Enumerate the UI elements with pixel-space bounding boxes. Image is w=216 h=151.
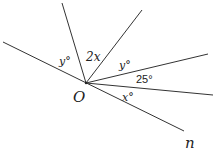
line-end-label-n: n: [185, 134, 195, 151]
vertex-label-o: O: [73, 88, 85, 106]
steep-ray: [62, 3, 86, 83]
angle-label-y-right: y°: [118, 59, 131, 72]
vertex-point: [85, 82, 87, 84]
angle-diagram: y° 2x y° 25° x° O n: [0, 0, 216, 151]
angle-label-25: 25°: [136, 73, 153, 85]
angle-label-y-left: y°: [58, 55, 71, 68]
angle-label-2x: 2x: [85, 50, 101, 64]
angle-label-x: x°: [122, 91, 134, 104]
